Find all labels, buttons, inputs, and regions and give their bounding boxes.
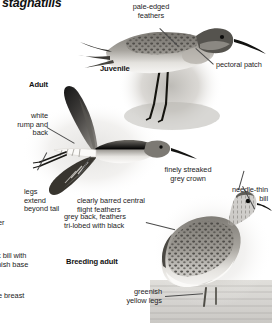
label-pectoral-patch: pectoral patch [216, 61, 262, 70]
label-greenish-yellow-legs: greenish yellow legs [100, 288, 162, 305]
label-pale-edged-feathers: pale-edged feathers [114, 3, 188, 20]
label-finely-streaked-grey-crown: finely streaked grey crown [150, 166, 226, 183]
plate-title: stagnatilis [2, 0, 62, 10]
field-guide-plate: stagnatilis pale-edged feathers pectoral… [0, 0, 272, 323]
label-white-rump-and-back: white rump and back [2, 112, 48, 138]
species-label-adult: Adult [29, 80, 48, 89]
clipped-label-dark-bill: k bill with nish base [0, 252, 28, 269]
breeding-adult-illustration [150, 191, 272, 323]
clipped-label-er: er [0, 219, 4, 228]
species-label-breeding-adult: Breeding adult [66, 257, 118, 266]
label-legs-extend-beyond-tail: legs extend beyond tail [24, 188, 59, 214]
clipped-label-breast: e breast [0, 292, 24, 301]
species-label-juvenile: Juvenile [100, 64, 130, 73]
label-needle-thin-bill: needle-thin bill [206, 186, 268, 203]
label-grey-back-tri-lobed: grey back, feathers tri-lobed with black [64, 213, 126, 230]
